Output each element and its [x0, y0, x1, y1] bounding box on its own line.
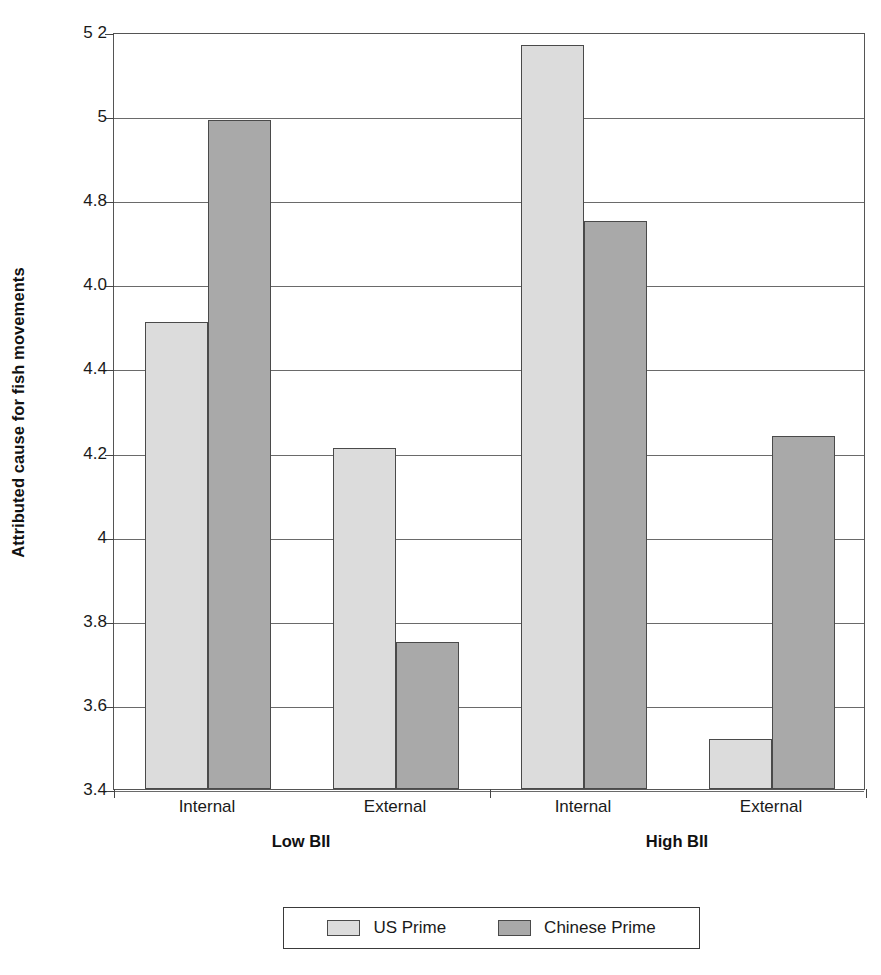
x-category-label-3: External: [701, 797, 841, 817]
y-tick-label: 5 2: [83, 23, 107, 43]
y-tick-label: 4.8: [83, 191, 107, 211]
legend-swatch-us-prime: [327, 920, 360, 936]
plot-area: 5 254.84.04.44.243.83.63.4: [113, 33, 865, 790]
y-axis-title: Attributed cause for fish movements: [9, 183, 28, 643]
legend-label-us-prime: US Prime: [373, 918, 446, 938]
bar-chart-figure: Attributed cause for fish movements 5 25…: [0, 0, 881, 975]
bar-chinese-prime-external-3: [772, 436, 835, 789]
legend-item-us-prime: US Prime: [327, 918, 446, 938]
bar-chinese-prime-external-1: [396, 642, 459, 789]
bar-us-prime-internal-0: [145, 322, 208, 789]
x-category-label-0: Internal: [137, 797, 277, 817]
x-category-label-2: Internal: [513, 797, 653, 817]
bar-us-prime-external-3: [709, 739, 772, 789]
x-tick-mark: [114, 789, 115, 798]
y-tick-label: 3.4: [83, 780, 107, 800]
x-tick-mark: [866, 789, 867, 798]
y-tick-label: 3.8: [83, 612, 107, 632]
chart-legend: US PrimeChinese Prime: [283, 907, 700, 949]
bar-us-prime-internal-2: [521, 45, 584, 789]
legend-swatch-chinese-prime: [498, 920, 531, 936]
legend-label-chinese-prime: Chinese Prime: [544, 918, 656, 938]
bar-us-prime-external-1: [333, 448, 396, 789]
y-tick-label: 5: [98, 107, 107, 127]
x-group-label-low-bii: Low BII: [211, 832, 391, 851]
gridline: [114, 791, 864, 792]
legend-item-chinese-prime: Chinese Prime: [498, 918, 656, 938]
x-category-label-1: External: [325, 797, 465, 817]
gridline: [114, 118, 864, 119]
bar-chinese-prime-internal-0: [208, 120, 271, 789]
bar-chinese-prime-internal-2: [584, 221, 647, 789]
x-group-label-high-bii: High BII: [587, 832, 767, 851]
y-tick-label: 4.2: [83, 444, 107, 464]
y-tick-label: 3.6: [83, 696, 107, 716]
y-tick-label: 4.4: [83, 359, 107, 379]
y-tick-label: 4: [98, 528, 107, 548]
x-tick-mark: [490, 789, 491, 798]
y-tick-label: 4.0: [83, 275, 107, 295]
